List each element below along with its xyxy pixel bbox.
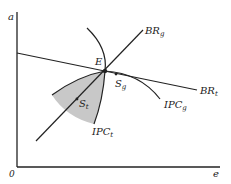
origin-label: 0 bbox=[9, 169, 15, 179]
point-E bbox=[103, 69, 107, 73]
y-axis-label: a bbox=[8, 11, 14, 22]
point-S-t bbox=[76, 98, 79, 101]
x-axis-label: e bbox=[213, 168, 219, 179]
br-g-line bbox=[36, 30, 143, 141]
ipc-g-label: IPCg bbox=[163, 99, 187, 112]
br-g-label: BRg bbox=[144, 25, 165, 38]
s-g-label: Sg bbox=[115, 78, 127, 91]
ipc-t-label: IPCt bbox=[91, 126, 113, 139]
point-E-label: E bbox=[94, 56, 103, 67]
diagram-canvas: a 0 e E Sg St BRg BRt IPCg IPCt bbox=[0, 0, 231, 184]
ipc-g-curve bbox=[105, 71, 160, 99]
br-t-label: BRt bbox=[199, 85, 218, 98]
point-S-g bbox=[115, 73, 118, 76]
